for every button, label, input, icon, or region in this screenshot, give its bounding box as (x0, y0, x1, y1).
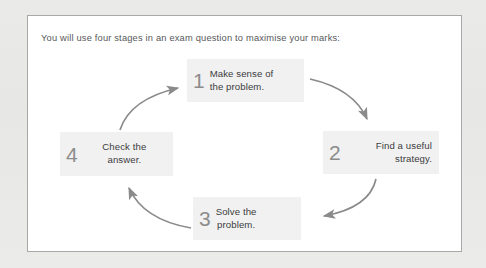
stage-label-1-line1: Make sense of (210, 68, 274, 79)
stage-label-4-line1: Check the (102, 141, 146, 152)
page-background: You will use four stages in an exam ques… (0, 0, 486, 268)
stage-number-2: 2 (323, 142, 346, 163)
stage-label-2-line2: strategy. (346, 153, 432, 166)
stage-label-4: Check the answer. (83, 141, 173, 166)
stage-number-4: 4 (60, 144, 83, 165)
stage-label-3: Solve the problem. (216, 206, 264, 231)
arrow-2-to-3 (324, 179, 376, 216)
stage-label-1-line2: the problem. (210, 81, 274, 94)
arrow-1-to-2 (310, 79, 367, 119)
cycle-diagram: 1 Make sense of the problem. 2 Find a us… (28, 16, 463, 253)
stage-number-3: 3 (193, 208, 216, 229)
stage-label-4-line2: answer. (83, 154, 166, 167)
stage-label-1: Make sense of the problem. (210, 68, 281, 93)
stage-number-1: 1 (187, 70, 210, 91)
arrow-3-to-4 (129, 188, 191, 228)
stage-label-3-line1: Solve the (216, 206, 257, 217)
stage-box-2[interactable]: 2 Find a useful strategy. (323, 131, 439, 174)
stage-box-1[interactable]: 1 Make sense of the problem. (187, 59, 304, 102)
stage-label-2-line1: Find a useful (376, 140, 432, 151)
stage-box-3[interactable]: 3 Solve the problem. (193, 197, 301, 240)
stage-box-4[interactable]: 4 Check the answer. (60, 132, 173, 176)
content-card: You will use four stages in an exam ques… (27, 15, 462, 252)
arrow-4-to-1 (120, 88, 178, 130)
stage-label-2: Find a useful strategy. (346, 140, 439, 165)
stage-label-3-line2: problem. (216, 219, 257, 232)
